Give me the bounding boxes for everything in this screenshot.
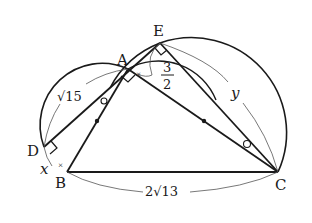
length-bc-label: 2√13 [145, 184, 178, 199]
label-b: B [55, 174, 66, 192]
segment-ec [160, 43, 278, 172]
length-ec-label: y [230, 84, 240, 102]
length-ad-label: √15 [57, 89, 82, 104]
cross-mark-b: × [58, 160, 63, 170]
length-ae-numerator: 3 [163, 60, 171, 75]
circle-abd-arc-2 [128, 61, 216, 100]
right-angle-mark-d [50, 141, 57, 154]
circle-abd-arc [40, 63, 128, 147]
circle-mark-ab [101, 98, 107, 104]
circle-mark-c [244, 141, 251, 148]
dim-arc-bc-1 [67, 172, 143, 192]
label-a: A [116, 51, 128, 69]
length-bd-label: x [40, 160, 49, 178]
midpoint-dot-ac [202, 119, 206, 123]
label-d: D [27, 142, 39, 160]
dim-arc-ec-2 [243, 103, 278, 172]
label-c: C [275, 176, 286, 194]
geometry-diagram: × × A B C D E √15 2√13 3 2 x y [0, 0, 312, 223]
dim-arc-bc-2 [190, 172, 278, 192]
label-e: E [153, 22, 164, 40]
midpoint-dot-ab [95, 119, 99, 123]
length-ae-denominator: 2 [163, 77, 171, 92]
